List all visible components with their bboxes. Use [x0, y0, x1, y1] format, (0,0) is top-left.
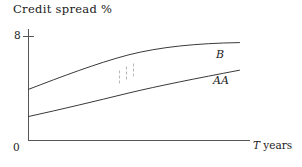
y-axis-tick-label-8: 8: [14, 30, 21, 41]
chart-title: Credit spread %: [13, 4, 112, 16]
spread-gap-hatch-icon: [120, 64, 134, 84]
x-axis-label: T years: [253, 140, 292, 151]
series-label-b: B: [216, 49, 224, 60]
x-axis-label-variable: T: [253, 139, 260, 151]
x-axis-label-unit: years: [260, 139, 292, 151]
series-curves-group: [29, 43, 240, 117]
origin-label: 0: [13, 142, 20, 153]
credit-spread-chart-figure: Credit spread % 8 0 T years B AA: [0, 0, 302, 167]
series-label-aa: AA: [213, 75, 229, 86]
